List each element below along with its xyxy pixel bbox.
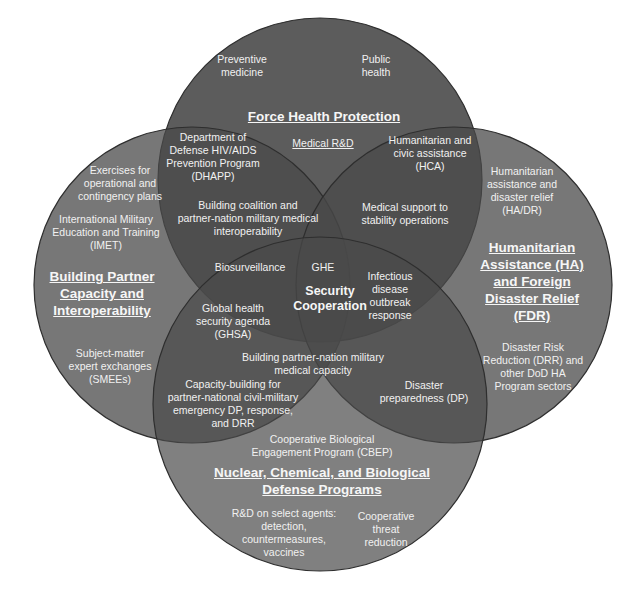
label-public-health: Publichealth	[362, 53, 391, 79]
title-humanitarian-assistance-fdr: HumanitarianAssistance (HA)and ForeignDi…	[480, 239, 584, 324]
label-medical-support-stability: Medical support tostability operations	[362, 201, 449, 227]
label-exercises: Exercises foroperational andcontingency …	[78, 164, 162, 203]
label-disaster-preparedness: Disasterpreparedness (DP)	[380, 379, 469, 405]
label-rd-select-agents: R&D on select agents:detection,counterme…	[232, 507, 336, 559]
label-infectious-disease: Infectiousdiseaseoutbreakresponse	[368, 270, 413, 322]
title-force-health-protection: Force Health Protection	[248, 108, 400, 125]
label-biosurveillance: Biosurveillance	[215, 261, 286, 274]
title-security-cooperation: SecurityCooperation	[293, 284, 367, 314]
label-cooperative-threat-reduction: Cooperativethreatreduction	[358, 510, 415, 549]
label-imet: International MilitaryEducation and Trai…	[52, 213, 159, 252]
title-building-partner-capacity: Building PartnerCapacity andInteroperabi…	[49, 268, 154, 319]
title-nuclear-chemical-biological: Nuclear, Chemical, and BiologicalDefense…	[214, 464, 430, 498]
label-building-partner-nation-capacity: Building partner-nation militarymedical …	[242, 351, 384, 377]
label-building-coalition: Building coalition andpartner-nation mil…	[178, 199, 319, 238]
label-drr: Disaster RiskReduction (DRR) andother Do…	[483, 341, 583, 393]
label-preventive-medicine: Preventivemedicine	[217, 53, 267, 79]
label-cbep: Cooperative BiologicalEngagement Program…	[251, 433, 392, 459]
label-ghe: GHE	[312, 261, 335, 274]
label-medical-rd: Medical R&D	[292, 137, 353, 150]
label-dhapp: Department ofDefense HIV/AIDSPrevention …	[166, 131, 259, 183]
label-smees: Subject-matterexpert exchanges(SMEEs)	[69, 347, 152, 386]
label-ha-dr: Humanitarianassistance anddisaster relie…	[487, 165, 557, 217]
label-hca: Humanitarian andcivic assistance(HCA)	[389, 134, 472, 173]
label-ghsa: Global healthsecurity agenda(GHSA)	[196, 302, 270, 341]
label-capacity-building: Capacity-building forpartner-national ci…	[168, 378, 299, 430]
